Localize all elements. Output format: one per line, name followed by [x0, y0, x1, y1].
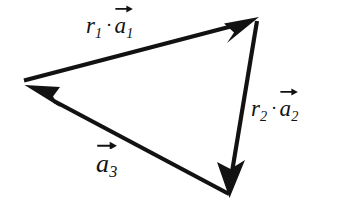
- vector-label-r1-a1: r1·a1: [86, 14, 134, 40]
- vector-r1-a1: [24, 17, 259, 81]
- vector-symbol-a1: a1: [115, 14, 135, 40]
- subscript-2: 2: [260, 108, 267, 124]
- subscript-2: 2: [291, 108, 298, 124]
- vector-r1-a1-shaft: [24, 23, 246, 81]
- vector-symbol-a2: a2: [280, 97, 300, 123]
- vector-triangle-figure: r1·a1 r2·a2 a3: [0, 0, 338, 203]
- coefficient-r1: r1: [86, 13, 102, 38]
- dot-operator: ·: [271, 98, 277, 118]
- subscript-3: 3: [109, 163, 117, 180]
- vector-symbol-a3: a3: [96, 151, 118, 181]
- subscript-1: 1: [126, 25, 133, 41]
- coefficient-r2: r2: [251, 96, 267, 121]
- vector-a3-shaft: [54, 101, 229, 194]
- vector-label-r2-a2: r2·a2: [251, 97, 299, 123]
- vector-label-a3: a3: [96, 151, 118, 181]
- vector-a3-arrowhead: [25, 85, 61, 107]
- vector-a3: [25, 85, 230, 194]
- dot-operator: ·: [106, 15, 112, 35]
- subscript-1: 1: [95, 25, 102, 41]
